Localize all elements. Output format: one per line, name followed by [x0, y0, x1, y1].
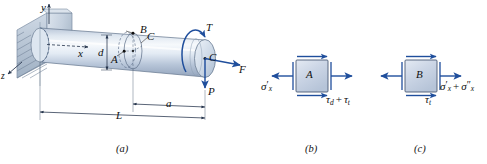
- element-a-sigma-sub: x: [269, 84, 272, 93]
- element-a-shear-operator: +: [334, 93, 344, 105]
- point-label-c-end: C: [209, 52, 216, 63]
- wall-top-edge: [42, 9, 72, 13]
- torque-label-t: T: [206, 22, 212, 33]
- point-label-a: A: [111, 54, 118, 65]
- dimension-label-a: a: [166, 98, 172, 109]
- dimension-line-l: [40, 112, 205, 118]
- element-b-sigma2-sub: x: [471, 84, 474, 93]
- element-a-sigma-label: σ′x: [261, 80, 272, 93]
- point-label-b: B: [140, 24, 147, 35]
- element-b-tau-sub: t: [429, 98, 431, 107]
- point-label-c-section: C: [147, 31, 154, 42]
- dimension-label-l: L: [116, 110, 122, 121]
- caption-panel-a: (a): [116, 143, 128, 154]
- section-center-point-c: [132, 50, 134, 52]
- figure-canvas: [0, 0, 487, 164]
- force-label-p: P: [208, 86, 215, 97]
- element-a-shear-label: τd+τt: [326, 94, 350, 106]
- axis-label-z: z: [1, 72, 5, 82]
- element-a-label: A: [306, 69, 313, 80]
- diameter-label-d: d: [98, 47, 104, 58]
- axis-label-y: y: [41, 2, 46, 13]
- element-b-normal-operator: +: [451, 80, 461, 92]
- axis-label-x: x: [78, 48, 83, 59]
- force-label-f: F: [239, 64, 246, 75]
- element-b-label: B: [416, 69, 423, 80]
- caption-panel-c: (c): [414, 143, 426, 154]
- element-a-tau-t-sub: t: [348, 98, 350, 107]
- element-b-sigma-label: σ′x+σ″x: [440, 80, 474, 93]
- caption-panel-b: (b): [305, 143, 317, 154]
- element-b-shear-label: τt: [425, 94, 431, 106]
